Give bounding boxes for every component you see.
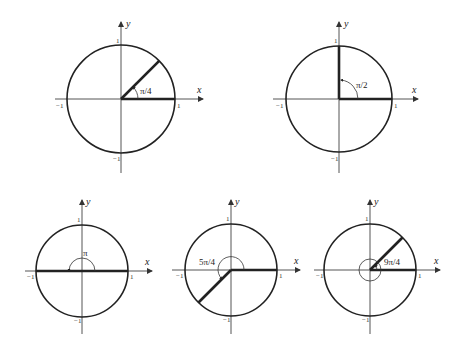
tick-pos-y: 1 — [334, 37, 338, 45]
y-label: y — [343, 18, 349, 29]
diagram-9pi-over-4: 9π/4 x y 1 −1 1 −1 — [314, 196, 440, 334]
tick-neg-x: −1 — [56, 102, 64, 110]
tick-neg-x: −1 — [27, 273, 35, 281]
tick-pos-x: 1 — [130, 273, 134, 281]
x-label: x — [433, 255, 439, 266]
tick-pos-y: 1 — [365, 215, 369, 223]
angle-label: 9π/4 — [384, 257, 401, 267]
y-label: y — [234, 196, 240, 207]
tick-neg-y: −1 — [362, 316, 370, 324]
angle-label: 5π/4 — [199, 257, 216, 267]
angle-label: π/2 — [356, 80, 368, 90]
x-label: x — [196, 84, 202, 95]
tick-pos-x: 1 — [394, 102, 398, 110]
tick-neg-y: −1 — [113, 155, 121, 163]
tick-neg-x: −1 — [276, 102, 284, 110]
angle-arc — [133, 87, 138, 99]
x-label: x — [293, 255, 299, 266]
y-label: y — [125, 18, 131, 29]
tick-pos-x: 1 — [279, 272, 283, 280]
tick-neg-y: −1 — [331, 155, 339, 163]
x-label: x — [144, 256, 150, 267]
y-label: y — [373, 196, 379, 207]
terminal-side — [199, 270, 232, 303]
diagram-5pi-over-4: 5π/4 x y 1 −1 1 −1 — [172, 196, 300, 334]
angle-label: π/4 — [140, 86, 152, 96]
unit-circle-diagrams: π/4 x y 1 −1 1 −1 π/2 x y 1 −1 1 −1 π x … — [0, 0, 463, 349]
tick-pos-y: 1 — [226, 215, 230, 223]
tick-neg-y: −1 — [223, 316, 231, 324]
tick-pos-x: 1 — [177, 102, 181, 110]
angle-label: π — [83, 248, 88, 258]
tick-neg-y: −1 — [74, 317, 82, 325]
diagram-pi-over-2: π/2 x y 1 −1 1 −1 — [273, 18, 418, 173]
y-label: y — [85, 196, 91, 207]
tick-pos-x: 1 — [418, 272, 422, 280]
x-label: x — [411, 84, 417, 95]
diagram-pi-over-4: π/4 x y 1 −1 1 −1 — [55, 18, 203, 173]
diagram-pi: π x y 1 −1 1 −1 — [25, 196, 152, 334]
tick-pos-y: 1 — [116, 37, 120, 45]
tick-neg-x: −1 — [316, 272, 324, 280]
tick-neg-x: −1 — [176, 272, 184, 280]
tick-pos-y: 1 — [77, 216, 81, 224]
